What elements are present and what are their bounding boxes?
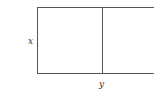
bottom-length-label-y: y <box>99 80 104 89</box>
outer-rectangle <box>37 7 154 74</box>
vertical-divider-line <box>102 7 103 74</box>
side-length-label-x: x <box>28 37 33 46</box>
diagram-canvas: x y <box>0 0 154 98</box>
